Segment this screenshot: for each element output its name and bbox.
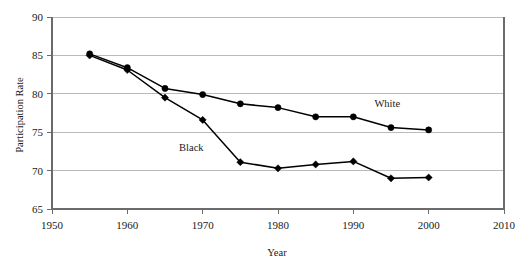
x-tick-label-1990: 1990: [342, 219, 365, 231]
y-tick-label-65: 65: [32, 203, 44, 215]
data-point-white-1980: [275, 105, 281, 111]
series-annotation-white: White: [374, 98, 400, 109]
x-tick-label-1970: 1970: [192, 219, 215, 231]
data-point-black-1995: [387, 175, 394, 182]
y-tick-label-90: 90: [32, 11, 44, 23]
chart-container: 657075808590 195019601970198019902000201…: [0, 0, 532, 276]
data-point-black-1985: [312, 161, 319, 168]
series-annotation-black: Black: [179, 142, 204, 153]
data-point-black-1990: [350, 158, 357, 165]
y-tick-label-75: 75: [32, 126, 44, 138]
y-tick-label-70: 70: [32, 165, 44, 177]
data-point-white-1975: [237, 101, 243, 107]
x-tick-label-1980: 1980: [267, 219, 290, 231]
y-tick-label-80: 80: [32, 88, 44, 100]
plot-frame: [52, 17, 504, 209]
x-tick-label-2010: 2010: [493, 219, 516, 231]
data-point-white-1995: [388, 124, 394, 130]
data-point-white-1985: [313, 114, 319, 120]
x-axis-ticks: [52, 209, 504, 214]
data-point-black-2000: [425, 174, 432, 181]
y-axis-ticks: [47, 17, 52, 209]
gridlines: [52, 17, 504, 209]
x-tick-label-1960: 1960: [116, 219, 139, 231]
x-axis-title: Year: [267, 247, 287, 258]
y-axis-title: Participation Rate: [14, 77, 25, 153]
series-annotations: WhiteBlack: [179, 98, 400, 153]
y-tick-label-85: 85: [32, 49, 44, 61]
x-tick-label-2000: 2000: [418, 219, 441, 231]
series-markers: [86, 51, 432, 182]
data-point-white-2000: [426, 127, 432, 133]
line-chart: 657075808590 195019601970198019902000201…: [0, 0, 532, 276]
series-line-black: [90, 55, 429, 178]
x-tick-labels: 1950196019701980199020002010: [41, 219, 516, 231]
series-line-white: [90, 54, 429, 130]
data-point-white-1990: [350, 114, 356, 120]
series-lines: [90, 54, 429, 178]
y-tick-labels: 657075808590: [32, 11, 44, 215]
data-point-white-1970: [200, 91, 206, 97]
x-tick-label-1950: 1950: [41, 219, 64, 231]
data-point-white-1965: [162, 85, 168, 91]
